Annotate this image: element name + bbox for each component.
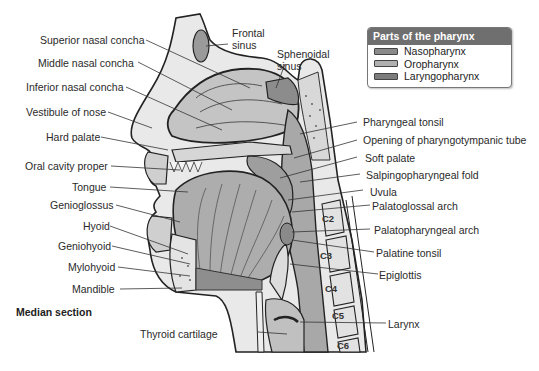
label-inferior-nasal-concha: Inferior nasal concha xyxy=(26,81,123,93)
laryngopharynx-swatch xyxy=(374,73,398,80)
label-palatopharyngeal-arch: Palatopharyngeal arch xyxy=(374,224,479,236)
label-uvula: Uvula xyxy=(370,186,397,198)
legend-label: Oropharynx xyxy=(404,58,459,70)
label-thyroid-cartilage: Thyroid cartilage xyxy=(140,328,218,340)
legend-label: Nasopharynx xyxy=(404,45,466,57)
mandible xyxy=(170,234,196,292)
legend-title: Parts of the pharynx xyxy=(368,28,511,45)
label-middle-nasal-concha: Middle nasal concha xyxy=(38,57,134,69)
label-oral-cavity-proper: Oral cavity proper xyxy=(25,160,108,172)
legend-item-oropharynx: Oropharynx xyxy=(368,58,511,71)
label-superior-nasal-concha: Superior nasal concha xyxy=(40,34,144,46)
label-frontal-sinus: Frontal sinus xyxy=(232,27,272,51)
legend-label: Laryngopharynx xyxy=(404,70,479,82)
label-palatine-tonsil: Palatine tonsil xyxy=(376,247,441,259)
caption-median-section: Median section xyxy=(16,306,92,318)
label-opening-of-pharyngotympanic-tube: Opening of pharyngotympanic tube xyxy=(363,134,526,146)
thyroid-cartilage xyxy=(256,292,264,352)
label-mandible: Mandible xyxy=(72,283,115,295)
label-hard-palate: Hard palate xyxy=(46,131,100,143)
label-tongue: Tongue xyxy=(72,181,106,193)
label-genioglossus: Genioglossus xyxy=(50,199,114,211)
label-larynx: Larynx xyxy=(388,318,420,330)
label-pharyngeal-tonsil: Pharyngeal tonsil xyxy=(363,116,444,128)
vertebra-c5-label: C5 xyxy=(332,310,344,321)
label-palatoglossal-arch: Palatoglossal arch xyxy=(372,200,458,212)
legend-item-laryngopharynx: Laryngopharynx xyxy=(368,70,511,83)
label-mylohyoid: Mylohyoid xyxy=(68,261,115,273)
label-epiglottis: Epiglottis xyxy=(379,269,422,281)
label-vestibule-of-nose: Vestibule of nose xyxy=(26,106,106,118)
oropharynx-swatch xyxy=(374,60,398,67)
label-soft-palate: Soft palate xyxy=(365,152,415,164)
vertebra-c3-label: C3 xyxy=(320,250,332,261)
legend-item-nasopharynx: Nasopharynx xyxy=(368,45,511,58)
label-hyoid: Hyoid xyxy=(83,220,110,232)
label-salpingopharyngeal-fold: Salpingopharyngeal fold xyxy=(366,169,479,181)
pharynx-legend: Parts of the pharynx Nasopharynx Orophar… xyxy=(367,27,512,88)
vertebra-c4-label: C4 xyxy=(325,283,337,294)
vertebra-c2-label: C2 xyxy=(322,213,334,224)
vertebra-c6-label: C6 xyxy=(337,340,349,351)
palatine-tonsil xyxy=(280,223,294,245)
label-geniohyoid: Geniohyoid xyxy=(58,240,111,252)
nasopharynx-swatch xyxy=(374,48,398,55)
label-sphenoidal-sinus: Sphenoidal sinus xyxy=(277,48,327,72)
